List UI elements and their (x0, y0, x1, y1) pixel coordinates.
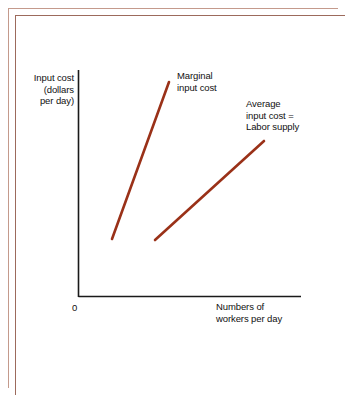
x-axis-label: Numbers of workers per day (216, 301, 320, 324)
marginal-input-cost-curve (112, 82, 169, 239)
marginal-input-cost-label: Marginal input cost (177, 70, 247, 93)
average-input-cost-label: Average input cost = Labor supply (246, 98, 324, 133)
origin-label: 0 (72, 302, 92, 314)
y-axis-label: Input cost (dollars per day) (8, 72, 74, 107)
average-input-cost-curve (155, 141, 264, 240)
